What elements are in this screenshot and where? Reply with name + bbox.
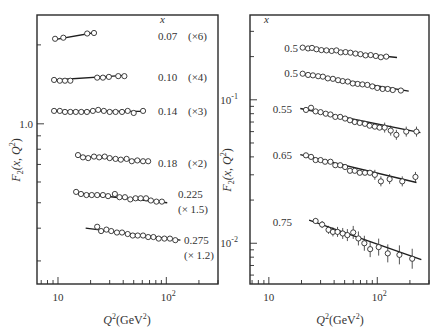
data-point <box>303 107 308 112</box>
series-label: 0.10 <box>158 71 178 83</box>
data-point <box>112 191 117 196</box>
data-point <box>131 110 136 115</box>
data-point <box>90 108 95 113</box>
series-x-0_5: 0.5 <box>284 67 408 93</box>
data-point <box>313 218 318 223</box>
left-x-axis-label: Q2(GeV2) <box>103 312 150 327</box>
data-point <box>300 45 305 50</box>
x-tick-label: 10 <box>52 291 64 303</box>
data-point <box>154 199 159 204</box>
data-point <box>122 195 127 200</box>
series-label: 0.18 <box>158 157 178 169</box>
series-scale-factor: (×3) <box>188 105 207 118</box>
ylabel-args: (x, Q <box>9 146 23 170</box>
data-point <box>308 154 313 159</box>
x-tick-label: 102 <box>161 289 176 303</box>
data-point <box>105 194 110 199</box>
data-point <box>388 128 393 133</box>
data-point <box>340 78 345 83</box>
data-point <box>57 108 62 113</box>
data-point <box>360 82 365 87</box>
data-point <box>385 86 390 91</box>
data-point <box>305 72 310 77</box>
data-point <box>358 52 363 57</box>
data-point <box>368 247 373 252</box>
data-point <box>335 229 340 234</box>
data-point <box>397 252 402 257</box>
series-scale-factor: (× 1.5) <box>178 203 208 216</box>
data-point <box>320 74 325 79</box>
data-point <box>117 195 122 200</box>
data-point <box>300 71 305 76</box>
series-x-0_5: 0.5 <box>284 42 397 60</box>
data-point <box>173 238 178 243</box>
data-point <box>114 230 119 235</box>
xlabel-close: ) <box>360 313 364 327</box>
data-point <box>85 31 90 36</box>
series-x-0_10: 0.10(×4) <box>51 71 207 84</box>
figure: 101021.0 0.07(×6)0.10(×4)0.14(×3)0.18(×2… <box>0 0 440 334</box>
xlabel-q: Q <box>103 313 112 327</box>
data-point <box>125 108 130 113</box>
data-point <box>119 109 124 114</box>
xlabel-close: ) <box>147 313 151 327</box>
svg-text:Q2(GeV2): Q2(GeV2) <box>103 312 150 327</box>
data-point <box>118 157 123 162</box>
data-point <box>91 30 96 35</box>
series-x-0_55: 0.55 <box>273 103 421 140</box>
xlabel-q: Q <box>316 313 325 327</box>
data-point <box>151 234 156 239</box>
data-point <box>367 170 372 175</box>
data-point <box>68 109 73 114</box>
xlabel-unit: (GeV <box>329 313 356 327</box>
right-panel: 1010210-110-2 0.50.50.550.650.75 x F2(x,… <box>219 13 429 327</box>
series-x-0_275: 0.275(× 1.2) <box>86 224 215 262</box>
data-point <box>357 120 362 125</box>
data-point <box>368 52 373 57</box>
series-x-0_225: 0.225(× 1.5) <box>74 188 209 216</box>
data-point <box>352 119 357 124</box>
data-point <box>325 76 330 81</box>
data-point <box>333 163 338 168</box>
data-point <box>140 159 145 164</box>
data-point <box>106 74 111 79</box>
data-point <box>140 233 145 238</box>
data-point <box>313 109 318 114</box>
y-tick-label: 1.0 <box>19 118 33 130</box>
data-point <box>146 234 151 239</box>
data-point <box>80 155 85 160</box>
data-point <box>338 114 343 119</box>
data-point <box>51 108 56 113</box>
right-axis-ticks: 1010210-110-2 <box>220 31 429 303</box>
data-point <box>365 82 370 87</box>
data-point <box>75 152 80 157</box>
left-series-group: 0.07(×6)0.10(×4)0.14(×3)0.18(×2)0.225(× … <box>51 30 214 262</box>
series-label: 0.275 <box>184 234 209 246</box>
series-label: 0.75 <box>273 216 293 228</box>
data-point <box>384 54 389 59</box>
series-label: 0.55 <box>273 103 293 115</box>
y-tick-label-base: 10 <box>220 94 232 106</box>
data-point <box>328 159 333 164</box>
series-label: 0.14 <box>158 105 178 117</box>
data-point <box>343 164 348 169</box>
data-point <box>362 170 367 175</box>
series-x-0_07: 0.07(×6) <box>52 30 207 43</box>
data-point <box>398 88 403 93</box>
data-point <box>78 191 83 196</box>
data-point <box>135 158 140 163</box>
data-point <box>116 74 121 79</box>
data-point <box>410 256 415 261</box>
data-point <box>107 109 112 114</box>
data-point <box>113 109 118 114</box>
series-x-0_18: 0.18(×2) <box>75 152 207 170</box>
data-point <box>414 129 419 134</box>
data-point <box>135 233 140 238</box>
data-point <box>385 251 390 256</box>
data-point <box>100 75 105 80</box>
x-tick-label: 102 <box>372 289 387 303</box>
y-tick-label-base: 10 <box>220 237 232 249</box>
svg-text:Q2(GeV2): Q2(GeV2) <box>316 312 363 327</box>
data-point <box>377 125 382 130</box>
data-point <box>313 157 318 162</box>
